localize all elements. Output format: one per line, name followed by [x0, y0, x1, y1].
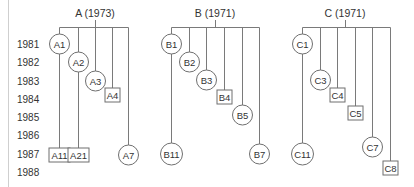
node-label: A11 [51, 150, 67, 161]
tree-title: B (1971) [195, 7, 235, 19]
node-c7: C7 [363, 137, 383, 157]
node-label: A7 [123, 150, 135, 161]
year-label: 1988 [17, 167, 40, 178]
node-a7: A7 [119, 145, 139, 165]
node-b2: B2 [180, 52, 200, 72]
year-label: 1987 [17, 149, 40, 160]
node-label: A21 [70, 150, 87, 161]
node-b1: B1 [162, 34, 182, 54]
year-label: 1982 [17, 57, 40, 68]
tree-c: C (1971)C1C11C3C4C5C7C8 [292, 7, 399, 175]
node-a3: A3 [86, 71, 106, 91]
tree-title: A (1973) [75, 7, 115, 19]
year-label: 1985 [17, 112, 40, 123]
node-label: B4 [219, 92, 231, 103]
node-c8: C8 [383, 161, 398, 175]
node-label: A1 [54, 39, 66, 50]
node-label: B2 [184, 57, 196, 68]
node-b7: B7 [250, 144, 270, 164]
node-c3: C3 [311, 70, 331, 90]
node-c11: C11 [292, 143, 314, 165]
node-c4: C4 [330, 88, 345, 102]
node-label: B5 [237, 110, 249, 121]
tree-title: C (1971) [325, 7, 366, 19]
node-label: A2 [73, 57, 85, 68]
node-label: B7 [254, 149, 266, 160]
node-a4: A4 [105, 88, 120, 102]
node-b5: B5 [233, 105, 253, 125]
node-b4: B4 [217, 90, 232, 104]
node-c5: C5 [348, 106, 363, 120]
year-label: 1986 [17, 130, 40, 141]
tree-b: B (1971)B1B11B2B3B4B5B7 [161, 7, 270, 165]
node-label: C11 [294, 149, 311, 160]
node-a11: A11 [49, 148, 70, 162]
genealogy-diagram: 19811982198319841985198619871988 A (1973… [0, 0, 414, 187]
node-label: B3 [201, 75, 213, 86]
node-label: C5 [349, 108, 361, 119]
node-label: B11 [163, 149, 179, 160]
year-axis-labels: 19811982198319841985198619871988 [17, 39, 40, 178]
tree-a: A (1973)A1A11A2A21A3A4A7 [49, 7, 139, 165]
node-b11: B11 [161, 143, 183, 165]
trees: A (1973)A1A11A2A21A3A4A7B (1971)B1B11B2B… [49, 7, 398, 175]
node-label: C1 [296, 39, 308, 50]
node-a21: A21 [68, 148, 89, 162]
node-a1: A1 [50, 34, 70, 54]
node-label: A4 [107, 90, 119, 101]
year-label: 1983 [17, 76, 40, 87]
node-c1: C1 [293, 34, 313, 54]
node-label: C7 [366, 142, 378, 153]
node-label: B1 [166, 39, 178, 50]
node-label: A3 [90, 76, 102, 87]
node-label: C4 [331, 90, 343, 101]
node-a2: A2 [69, 52, 89, 72]
node-b3: B3 [197, 70, 217, 90]
node-label: C3 [314, 75, 326, 86]
year-label: 1984 [17, 94, 40, 105]
node-label: C8 [384, 163, 396, 174]
year-label: 1981 [17, 39, 40, 50]
